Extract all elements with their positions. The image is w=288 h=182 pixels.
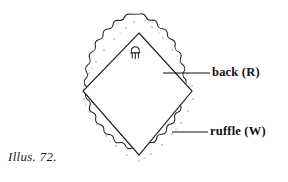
callout-label-ruffle: ruffle (W) (210, 125, 266, 138)
figure-caption: Illus. 72. (8, 150, 57, 163)
callout-label-back: back (R) (212, 66, 260, 79)
illustration-figure: back (R) ruffle (W) Illus. 72. (0, 0, 288, 182)
